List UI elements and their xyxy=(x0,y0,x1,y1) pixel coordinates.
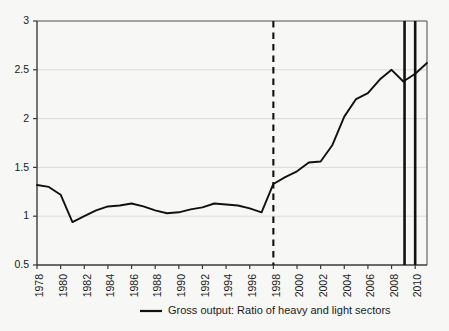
x-tick-label: 1980 xyxy=(57,274,69,298)
y-tick-label: 0.5 xyxy=(14,258,29,270)
x-tick-label: 1996 xyxy=(246,274,258,298)
x-tick-label: 2008 xyxy=(388,274,400,298)
x-tick-label: 2010 xyxy=(411,274,423,298)
chart-canvas: 0.511.522.53 197819801982198419861988199… xyxy=(0,0,449,331)
y-tick-label: 1.5 xyxy=(14,161,29,173)
legend-entry-label: Gross output: Ratio of heavy and light s… xyxy=(168,304,391,316)
x-tick-label: 1986 xyxy=(128,274,140,298)
x-tick-label: 2006 xyxy=(364,274,376,298)
x-tick-label: 1992 xyxy=(199,274,211,298)
y-tick-label: 2 xyxy=(23,112,29,124)
x-tick-label: 2000 xyxy=(293,274,305,298)
x-tick-label: 1982 xyxy=(81,274,93,298)
chart-legend: Gross output: Ratio of heavy and light s… xyxy=(140,304,391,316)
x-tick-label: 1988 xyxy=(151,274,163,298)
x-tick-label: 2004 xyxy=(341,274,353,298)
x-tick-label: 2002 xyxy=(317,274,329,298)
x-tick-label: 1984 xyxy=(104,274,116,298)
y-tick-label: 3 xyxy=(23,14,29,26)
x-tick-label: 1994 xyxy=(222,274,234,298)
y-tick-label: 2.5 xyxy=(14,63,29,75)
x-tick-label: 1998 xyxy=(270,274,282,298)
x-tick-label: 1990 xyxy=(175,274,187,298)
y-tick-label: 1 xyxy=(23,209,29,221)
chart-figure: 0.511.522.53 197819801982198419861988199… xyxy=(0,0,449,331)
x-tick-label: 1978 xyxy=(33,274,45,298)
